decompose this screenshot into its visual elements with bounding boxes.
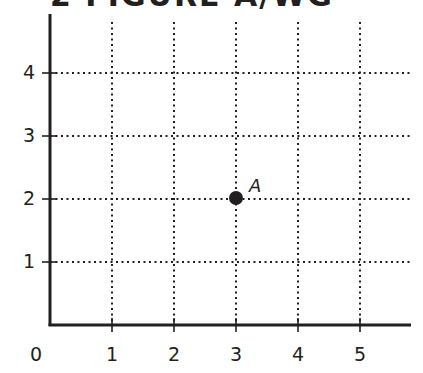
y-tick-label-4: 4 [23,61,35,83]
x-tick-label-4: 4 [292,343,304,365]
x-tick-label-5: 5 [354,343,366,365]
tick-labels: 0123451234 [23,61,366,365]
data-points: A [229,175,261,205]
y-tick-label-2: 2 [23,187,35,209]
y-tick-label-3: 3 [23,124,35,146]
x-tick-label-0: 0 [30,343,42,365]
y-tick-label-1: 1 [23,250,35,272]
point-label-A: A [248,175,261,196]
coordinate-grid-chart: 0123451234 A [0,0,423,373]
tick-marks [42,73,360,332]
x-tick-label-2: 2 [168,343,180,365]
x-tick-label-1: 1 [106,343,118,365]
point-A [229,191,243,205]
gridlines [50,22,411,325]
axes [49,14,412,326]
x-tick-label-3: 3 [230,343,242,365]
